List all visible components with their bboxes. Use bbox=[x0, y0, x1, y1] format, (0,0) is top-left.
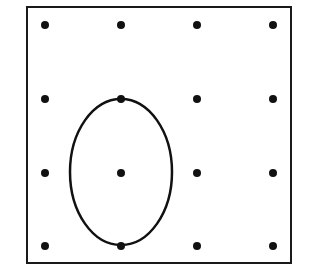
grid-dot-r0-c2 bbox=[193, 21, 201, 29]
dot-grid-diagram bbox=[0, 0, 316, 278]
grid-dot-r0-c1 bbox=[117, 21, 125, 29]
grid-dot-r3-c2 bbox=[193, 242, 201, 250]
grid-dot-r1-c0 bbox=[41, 95, 49, 103]
grid-dot-r3-c0 bbox=[41, 242, 49, 250]
grid-dot-r2-c3 bbox=[269, 169, 277, 177]
grid-dot-r1-c2 bbox=[193, 95, 201, 103]
grid-dot-r2-c0 bbox=[41, 169, 49, 177]
grid-dot-r0-c3 bbox=[269, 21, 277, 29]
grid-dot-r2-c1 bbox=[117, 169, 125, 177]
grid-dot-r3-c3 bbox=[269, 242, 277, 250]
grid-dot-r2-c2 bbox=[193, 169, 201, 177]
grid-dot-r1-c3 bbox=[269, 95, 277, 103]
frame-border bbox=[27, 7, 291, 263]
grid-dot-r0-c0 bbox=[41, 21, 49, 29]
